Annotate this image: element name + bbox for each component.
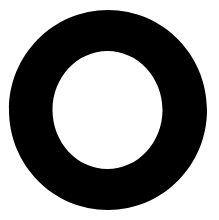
- ring-glyph-image: [0, 0, 219, 220]
- ring-icon: [0, 0, 219, 220]
